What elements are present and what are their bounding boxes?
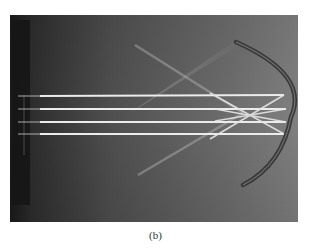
figure-caption: (b)	[0, 229, 311, 241]
optics-photo	[10, 15, 298, 222]
figure: (b)	[0, 0, 311, 252]
light-source-strip	[12, 20, 30, 205]
